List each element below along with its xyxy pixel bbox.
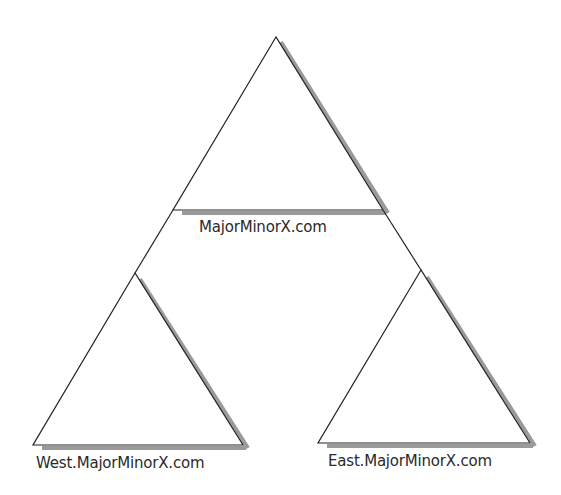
root-triangle-outline <box>173 37 383 210</box>
root-domain-triangle <box>173 37 388 213</box>
diagram-graphics <box>0 0 561 495</box>
edge-root-to-east <box>383 210 421 270</box>
east-domain-triangle <box>318 270 535 446</box>
edge-root-to-west <box>135 210 173 273</box>
east-domain-label: East.MajorMinorX.com <box>328 452 492 470</box>
root-domain-label: MajorMinorX.com <box>199 218 327 236</box>
west-domain-label: West.MajorMinorX.com <box>36 454 204 472</box>
west-domain-triangle <box>33 273 248 448</box>
west-triangle-outline <box>33 273 243 445</box>
domain-tree-diagram: MajorMinorX.com West.MajorMinorX.com Eas… <box>0 0 561 495</box>
east-triangle-outline <box>318 270 530 443</box>
